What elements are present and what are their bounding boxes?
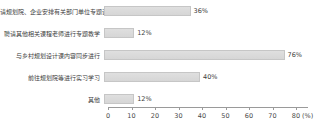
x-axis-tick-label: 30 [174, 112, 182, 120]
x-axis-tick [249, 108, 250, 110]
value-label: 76% [283, 51, 302, 59]
horizontal-bar-chart: 请规划院、企业安排有关部门单位专题讲解36%聘请其他相关课程老师进行专题教学12… [0, 0, 317, 121]
x-axis-tick-label: 0 [106, 112, 110, 120]
bar [104, 50, 285, 60]
bar-row: 聘请其他相关课程老师进行专题教学12% [0, 22, 317, 44]
x-axis-tick [273, 108, 274, 110]
category-label: 与乡村规划设计课内容同步进行 [0, 52, 104, 59]
x-axis-tick [296, 108, 297, 110]
bar-track: 12% [104, 94, 292, 104]
bar-row: 前往规划院等进行实习学习40% [0, 66, 317, 88]
category-label: 请规划院、企业安排有关部门单位专题讲解 [0, 8, 104, 15]
value-label: 40% [198, 73, 217, 81]
x-axis-tick [226, 108, 227, 110]
bar [104, 72, 200, 82]
x-axis-tick [155, 108, 156, 110]
bar [104, 6, 191, 16]
category-label: 其他 [0, 96, 104, 103]
x-axis: (%) 01020304050607080 [108, 107, 308, 121]
bar-row: 请规划院、企业安排有关部门单位专题讲解36% [0, 0, 317, 22]
x-axis-tick-label: 80 [292, 112, 300, 120]
x-axis-tick [132, 108, 133, 110]
x-axis-tick [202, 108, 203, 110]
category-label: 前往规划院等进行实习学习 [0, 74, 104, 81]
x-axis-tick-label: 20 [151, 112, 159, 120]
value-label: 12% [132, 95, 151, 103]
bar [104, 28, 134, 38]
x-axis-unit-label: (%) [302, 112, 313, 120]
x-axis-tick-label: 70 [268, 112, 276, 120]
bar-track: 40% [104, 72, 292, 82]
bar-track: 12% [104, 28, 292, 38]
x-axis-tick-label: 50 [221, 112, 229, 120]
x-axis-tick-label: 60 [245, 112, 253, 120]
bar-row: 与乡村规划设计课内容同步进行76% [0, 44, 317, 66]
category-label: 聘请其他相关课程老师进行专题教学 [0, 30, 104, 37]
value-label: 12% [132, 29, 151, 37]
bar-track: 76% [104, 50, 292, 60]
x-axis-tick-label: 40 [198, 112, 206, 120]
x-axis-tick-label: 10 [127, 112, 135, 120]
x-axis-tick [179, 108, 180, 110]
bar [104, 94, 134, 104]
x-axis-tick [108, 108, 109, 110]
bar-track: 36% [104, 6, 292, 16]
value-label: 36% [189, 7, 208, 15]
